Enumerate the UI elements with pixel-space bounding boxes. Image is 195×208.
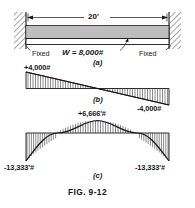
figure-caption: FIG. 9-12 <box>68 188 107 196</box>
panel-c-label: (c) <box>93 172 102 180</box>
moment-right-label: -13,333'# <box>135 164 165 171</box>
distributed-load-hatch <box>26 26 169 39</box>
panel-b-label: (b) <box>93 96 103 104</box>
panel-a-label: (a) <box>93 59 102 67</box>
right-fixed-label: Fixed <box>139 50 157 57</box>
shear-max-label: +4,000# <box>24 64 50 71</box>
moment-negative-right-area <box>139 133 169 161</box>
moment-diagram <box>26 121 169 162</box>
beam-member <box>26 39 169 45</box>
right-fixed-support <box>169 12 181 49</box>
left-fixed-label: Fixed <box>32 50 50 57</box>
moment-curve <box>26 121 169 162</box>
moment-negative-left-area <box>26 133 56 161</box>
left-fixed-support <box>14 12 26 49</box>
moment-max-label: +6,666'# <box>78 110 106 117</box>
moment-left-label: -13,333'# <box>4 164 34 171</box>
span-dimension-label: 20' <box>88 13 99 21</box>
shear-min-label: -4,000# <box>137 105 161 112</box>
left-fixed-leader <box>26 46 30 51</box>
load-label: W = 8,000# <box>62 49 103 57</box>
